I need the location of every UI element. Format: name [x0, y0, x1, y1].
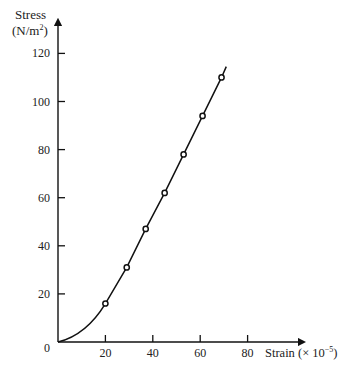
x-tick-label: 80 — [242, 346, 254, 360]
origin-label: 0 — [44, 341, 50, 355]
data-point-marker — [103, 301, 108, 306]
y-tick-label: 60 — [38, 191, 50, 205]
data-point-marker — [181, 152, 186, 157]
y-axis-unit: (N/m2) — [12, 23, 48, 38]
y-tick-label: 20 — [38, 287, 50, 301]
y-tick-label: 80 — [38, 143, 50, 157]
x-tick-label: 20 — [99, 346, 111, 360]
x-tick-label: 60 — [194, 346, 206, 360]
x-ticks: 20406080 — [99, 335, 253, 360]
data-point-marker — [200, 113, 205, 118]
x-tick-label: 40 — [147, 346, 159, 360]
data-point-marker — [143, 226, 148, 231]
figure-caption-cropped — [0, 368, 355, 373]
stress-strain-curve — [58, 67, 226, 342]
y-tick-label: 120 — [32, 46, 50, 60]
y-tick-label: 40 — [38, 239, 50, 253]
y-tick-label: 100 — [32, 95, 50, 109]
y-axis-label: Stress — [15, 7, 46, 22]
y-ticks: 20406080100120 — [32, 46, 65, 301]
stress-strain-chart: 20406080100120 20406080 Stress (N/m2) 0 … — [0, 0, 355, 373]
x-axis-label: Strain (× 10−5) — [265, 345, 338, 360]
data-point-marker — [162, 190, 167, 195]
data-point-marker — [124, 265, 129, 270]
data-point-marker — [219, 75, 224, 80]
